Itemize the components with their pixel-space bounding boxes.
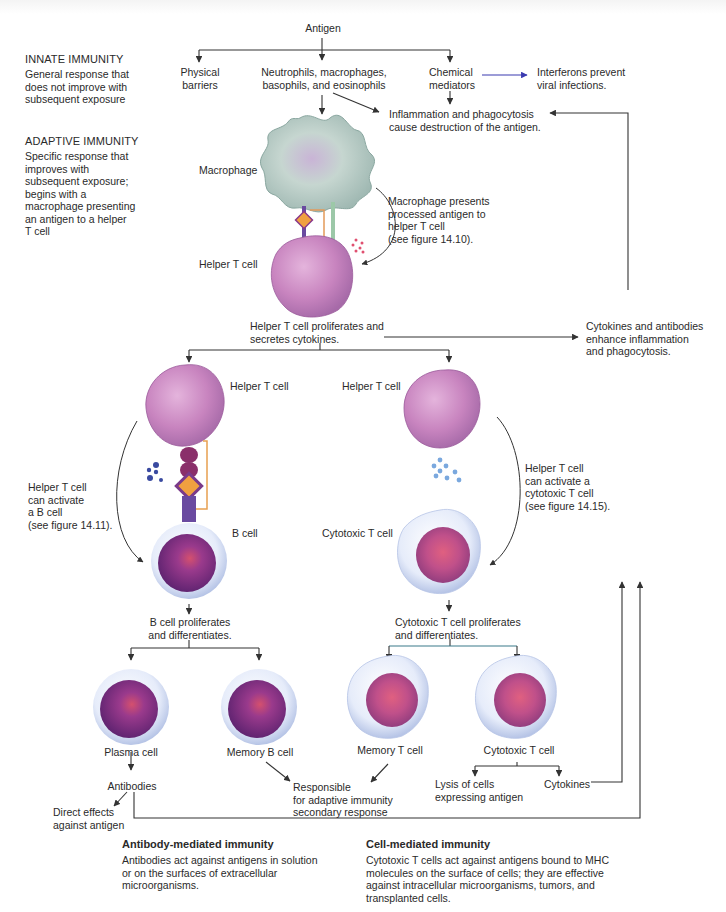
phagocytes-label: Neutrophils, macrophages, basophils, and… (256, 66, 392, 91)
b-proliferates-label: B cell proliferates and differentiates. (130, 616, 250, 641)
plasma-cell (93, 669, 169, 745)
memory-t-cell (347, 655, 428, 738)
helper-t-cell-top (271, 236, 352, 317)
lysis-label: Lysis of cells expressing antigen (435, 778, 523, 803)
cytokine-dots-blue-light (432, 458, 462, 483)
innate-immunity-title: INNATE IMMUNITY (25, 53, 123, 66)
helper-t-cell-left-label: Helper T cell (230, 380, 289, 393)
helper-t-cell-left (146, 365, 224, 447)
cytokine-dots-blue-dark (147, 462, 163, 482)
cytotoxic-t-cell-label: Cytotoxic T cell (322, 527, 393, 540)
helper-t-proliferates-label: Helper T cell proliferates and secretes … (250, 320, 400, 345)
b-activate-arrow (117, 421, 143, 562)
t-activate-note: Helper T cell can activate a cytotoxic T… (525, 462, 635, 512)
presentation-note: Macrophage presents processed antigen to… (388, 195, 508, 245)
plasma-cell-label: Plasma cell (96, 746, 166, 759)
antibodies-label: Antibodies (100, 780, 164, 793)
direct-effects-label: Direct effects against antigen (53, 806, 124, 831)
memory-t-cell-label: Memory T cell (350, 744, 430, 757)
cytokines-label: Cytokines (544, 778, 590, 791)
memory-b-cell (221, 669, 297, 745)
inflammation-label: Inflammation and phagocytosis cause dest… (389, 108, 541, 133)
chemical-mediators-label: Chemical mediators (429, 66, 475, 91)
cytokines-antibodies-label: Cytokines and antibodies enhance inflamm… (586, 320, 726, 358)
cytokine-dots-red (352, 239, 365, 254)
cell-mediated-title: Cell-mediated immunity (366, 838, 490, 851)
adaptive-immunity-desc: Specific response that improves with sub… (25, 150, 165, 238)
t-activate-arrow (490, 417, 520, 565)
antibody-mediated-title: Antibody-mediated immunity (122, 838, 274, 851)
physical-barriers-label: Physical barriers (170, 66, 230, 91)
memory-b-cell-label: Memory B cell (222, 746, 298, 759)
adaptive-immunity-title: ADAPTIVE IMMUNITY (25, 135, 139, 148)
cytotoxic-t-cell-activated (398, 509, 481, 593)
helper-t-cell-right (404, 370, 480, 448)
macrophage-cell (260, 115, 374, 212)
innate-immunity-desc: General response that does not improve w… (25, 68, 155, 106)
b-cell (151, 523, 227, 599)
antibody-mediated-desc: Antibodies act against antigens in solut… (122, 854, 342, 892)
antigen-label: Antigen (296, 22, 350, 35)
helper-t-cell-right-label: Helper T cell (342, 380, 401, 393)
b-cell-label: B cell (232, 527, 258, 540)
t-proliferates-label: Cytotoxic T cell proliferates and differ… (395, 616, 545, 641)
cell-mediated-desc: Cytotoxic T cells act against antigens b… (366, 854, 636, 904)
secondary-response-label: Responsible for adaptive immunity second… (293, 781, 423, 819)
cytotoxic-t-cell-effector-label: Cytotoxic T cell (476, 744, 562, 757)
b-activate-note: Helper T cell can activate a B cell (see… (28, 481, 118, 531)
cytotoxic-t-cell-effector (475, 655, 556, 738)
interferons-label: Interferons prevent viral infections. (537, 66, 625, 91)
macrophage-label: Macrophage (199, 164, 257, 177)
helper-t-cell-top-label: Helper T cell (199, 258, 258, 271)
b-activation-complex (176, 441, 207, 522)
